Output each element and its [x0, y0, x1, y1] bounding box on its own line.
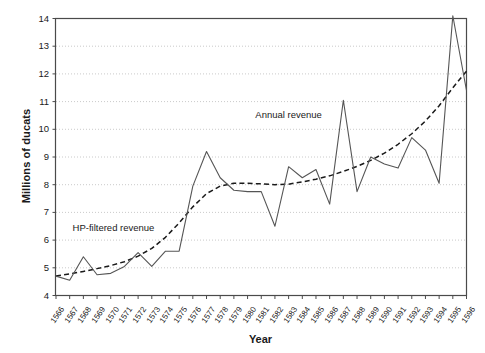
gridlines — [56, 46, 467, 268]
revenue-chart: Millions of ducats 4567891011121314 1566… — [0, 0, 485, 353]
plot-area — [0, 0, 485, 353]
x-axis-title: Year — [0, 333, 485, 345]
series-label-hp-filtered-revenue: HP-filtered revenue — [73, 223, 155, 233]
series-label-annual-revenue: Annual revenue — [255, 111, 322, 121]
series-annual-revenue — [56, 16, 467, 281]
